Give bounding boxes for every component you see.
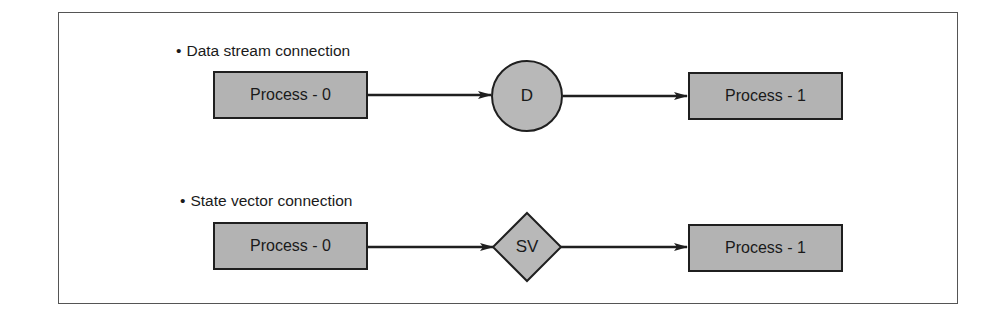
data-stream-node-label: D <box>492 61 562 131</box>
state-vector-node-label: SV <box>493 213 561 281</box>
